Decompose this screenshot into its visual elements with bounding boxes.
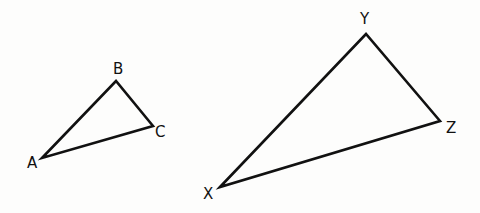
vertex-label-z: Z — [446, 119, 456, 137]
vertex-label-x: X — [203, 185, 213, 203]
triangle-abc — [42, 81, 153, 158]
triangle-xyz — [220, 34, 440, 187]
vertex-label-y: Y — [359, 10, 370, 28]
vertex-label-c: C — [155, 123, 165, 141]
diagram-canvas: A B C X Y Z — [0, 0, 480, 213]
vertex-label-b: B — [113, 60, 123, 78]
vertex-label-a: A — [27, 154, 38, 172]
triangles-figure: A B C X Y Z — [0, 0, 480, 213]
